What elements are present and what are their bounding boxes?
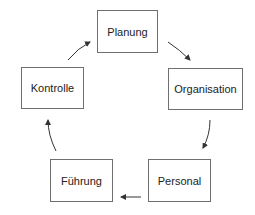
- node-label: Organisation: [174, 83, 236, 95]
- node-fuehrung: Führung: [50, 159, 113, 202]
- node-organisation: Organisation: [168, 68, 243, 110]
- arrow-planung-to-organisation: [168, 42, 190, 60]
- node-planung: Planung: [97, 10, 158, 53]
- node-kontrolle: Kontrolle: [21, 67, 84, 109]
- arrow-fuehrung-to-kontrolle: [48, 120, 56, 151]
- node-label: Führung: [61, 175, 102, 187]
- node-label: Planung: [107, 26, 147, 38]
- node-label: Kontrolle: [31, 82, 74, 94]
- arrow-organisation-to-personal: [203, 120, 210, 148]
- arrow-kontrolle-to-planung: [68, 42, 90, 60]
- node-personal: Personal: [148, 159, 211, 202]
- node-label: Personal: [158, 175, 201, 187]
